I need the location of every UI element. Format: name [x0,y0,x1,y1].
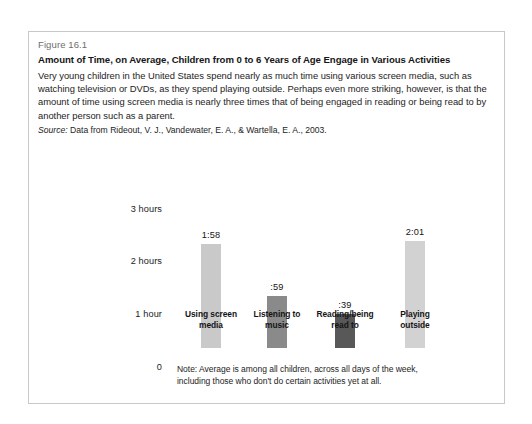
bar-label-line-1: Using screen [185,309,237,319]
bar-value-playing-outside: 2:01 [406,227,425,237]
bar-using-screen-media[interactable] [201,244,221,348]
bar-label-line-2: outside [400,320,429,330]
bar-chart: 3 hours 2 hours 1 hour 0 1:58 Using scre… [29,140,504,404]
chart-note-line-1: Note: Average is among all children, acr… [177,364,418,374]
figure-source: Source: Data from Rideout, V. J., Vandew… [38,124,495,136]
figure-number: Figure 16.1 [38,38,495,51]
bar-group-listening-to-music: :59 Listening to music [239,140,315,380]
bar-label-line-1: Reading/being [316,309,373,319]
source-text: Data from Rideout, V. J., Vandewater, E.… [68,125,327,135]
figure-title: Amount of Time, on Average, Children fro… [38,53,495,67]
figure-header: Figure 16.1 Amount of Time, on Average, … [38,38,495,136]
figure-caption: Very young children in the United States… [38,69,495,122]
bar-value-using-screen-media: 1:58 [202,230,221,240]
bar-label-playing-outside: Playing outside [373,309,457,332]
bar-group-playing-outside: 2:01 Playing outside [377,140,453,380]
source-label: Source: [38,125,68,135]
y-axis-tick-3-hours: 3 hours [42,204,162,214]
y-axis-tick-2-hours: 2 hours [42,256,162,266]
bar-label-line-2: read to [331,320,359,330]
bar-label-line-1: Playing [400,309,429,319]
bar-playing-outside[interactable] [405,241,425,348]
bar-label-line-1: Listening to [254,309,301,319]
bar-group-reading-being-read-to: :39 Reading/being read to [307,140,383,380]
chart-note: Note: Average is among all children, acr… [29,364,504,387]
bar-label-line-2: music [265,320,289,330]
chart-note-line-2: including those who don't do certain act… [177,376,381,386]
y-axis-tick-1-hour: 1 hour [42,309,162,319]
y-axis: 3 hours 2 hours 1 hour 0 [29,140,162,380]
figure-box: Figure 16.1 Amount of Time, on Average, … [28,31,505,404]
bar-label-line-2: media [199,320,223,330]
bar-group-using-screen-media: 1:58 Using screen media [173,140,249,380]
plot-area: 1:58 Using screen media :59 Listening to… [169,140,479,380]
bar-value-listening-to-music: :59 [270,282,283,292]
